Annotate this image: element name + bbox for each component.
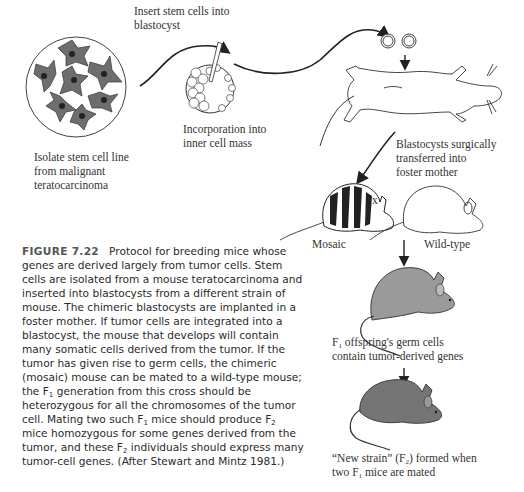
figure-number: FIGURE 7.22 xyxy=(22,245,99,257)
f2-mouse-icon xyxy=(350,380,441,450)
label-insert: Insert stem cells into blastocyst xyxy=(134,4,230,32)
arrow-to-blastocysts xyxy=(234,30,388,74)
stem-cell-dish-icon xyxy=(26,37,126,137)
cross-symbol: x xyxy=(372,193,378,207)
figure-stage: Isolate stem cell line from malignant te… xyxy=(0,0,524,492)
label-f2-new-strain: “New strain” (F2) formed when two F1 mic… xyxy=(332,451,477,479)
foster-mother-mouse-icon xyxy=(320,64,502,146)
figure-caption: FIGURE 7.22 Protocol for breeding mice w… xyxy=(22,244,304,468)
arrow-to-mosaic xyxy=(358,132,395,182)
label-f1-offspring: F1 offspring's germ cells contain tumor-… xyxy=(332,335,463,363)
wild-type-mouse-icon xyxy=(370,186,483,240)
label-wild-type: Wild-type xyxy=(424,237,470,251)
blastocyst-pair-icon xyxy=(381,34,416,48)
label-mosaic: Mosaic xyxy=(312,237,346,251)
label-incorporation: Incorporation into inner cell mass xyxy=(183,122,266,150)
label-isolate: Isolate stem cell line from malignant te… xyxy=(34,150,129,192)
blastocyst-icon xyxy=(186,42,236,113)
label-surgical-transfer: Blastocysts surgically transferred into … xyxy=(396,137,496,179)
